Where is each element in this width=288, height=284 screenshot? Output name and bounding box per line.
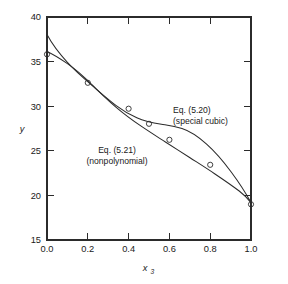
x-tick-label-3: 0.6	[163, 244, 176, 254]
eq-521-annotation-line1: Eq. (5.21)	[98, 145, 136, 155]
eq-521-annotation-line2: (nonpolynomial)	[86, 156, 147, 166]
x-tick-label-2: 0.4	[122, 244, 135, 254]
y-axis-title: y	[19, 124, 26, 134]
chart-plot-area: 0.0 0.2 0.4 0.6 0.8 1.0 15 20 25 30 35 4…	[0, 0, 288, 284]
data-point	[208, 162, 213, 167]
x-tick-label-5: 1.0	[245, 244, 258, 254]
x-axis-ticks	[47, 233, 251, 240]
data-point-markers	[44, 52, 253, 207]
y-axis-ticks-right	[244, 62, 251, 196]
x-axis-ticks-top	[88, 17, 210, 24]
y-tick-label-4: 35	[31, 57, 41, 67]
y-axis-ticks	[47, 17, 54, 240]
data-point	[167, 137, 172, 142]
x-tick-label-1: 0.2	[81, 244, 94, 254]
plot-frame	[47, 17, 251, 240]
eq-520-annotation-line1: Eq. (5.20)	[173, 105, 211, 115]
curve-eq-521	[47, 52, 251, 203]
y-tick-label-0: 15	[31, 235, 41, 245]
x-tick-label-0: 0.0	[41, 244, 54, 254]
x-axis-title-subscript: 3	[151, 268, 155, 275]
eq-520-annotation-line2: (special cubic)	[173, 116, 228, 126]
y-tick-label-1: 20	[31, 191, 41, 201]
eq-520-annotation: Eq. (5.20) (special cubic)	[173, 105, 228, 126]
y-tick-label-3: 30	[31, 102, 41, 112]
x-axis-title-base: x	[142, 263, 148, 273]
y-tick-label-2: 25	[31, 146, 41, 156]
data-point	[126, 106, 131, 111]
x-axis-title: x 3	[142, 263, 155, 275]
x-tick-label-4: 0.8	[204, 244, 217, 254]
eq-521-annotation: Eq. (5.21) (nonpolynomial)	[86, 145, 147, 166]
y-tick-label-5: 40	[31, 12, 41, 22]
chart-figure: 0.0 0.2 0.4 0.6 0.8 1.0 15 20 25 30 35 4…	[0, 0, 288, 284]
